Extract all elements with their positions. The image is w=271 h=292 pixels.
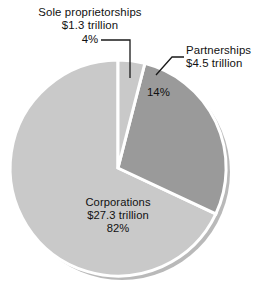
slice-label-corporations-name: Corporations bbox=[38, 196, 198, 209]
pie-chart: Sole proprietorships $1.3 trillion 4% Pa… bbox=[0, 0, 271, 292]
slice-label-partnerships: Partnerships $4.5 trillion bbox=[186, 44, 271, 71]
slice-label-partnerships-name: Partnerships bbox=[186, 44, 271, 57]
slice-label-corporations-percent: 82% bbox=[38, 222, 198, 235]
slice-percent-partnerships: 14% bbox=[147, 86, 170, 98]
slice-label-sole-percent: 4% bbox=[0, 33, 180, 46]
slice-label-partnerships-value: $4.5 trillion bbox=[186, 57, 271, 70]
slice-label-sole-name: Sole proprietorships bbox=[0, 6, 180, 19]
slice-label-sole-value: $1.3 trillion bbox=[0, 19, 180, 32]
slice-label-corporations: Corporations $27.3 trillion 82% bbox=[38, 196, 198, 236]
slice-label-sole-proprietorships: Sole proprietorships $1.3 trillion 4% bbox=[0, 6, 180, 46]
slice-label-corporations-value: $27.3 trillion bbox=[38, 209, 198, 222]
